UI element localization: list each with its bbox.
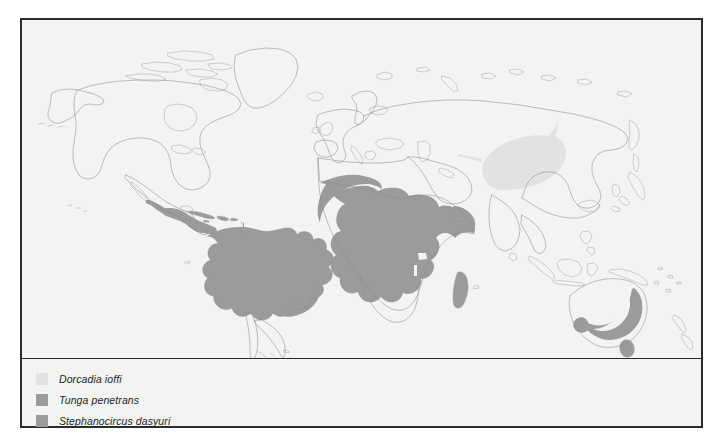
legend-label-stephanocircus-dasyuri: Stephanocircus dasyuri [59, 415, 170, 427]
legend-swatch-stephanocircus-dasyuri [36, 415, 48, 427]
lake-victoria-enclave [418, 253, 427, 260]
world-map-svg [22, 20, 701, 358]
legend-swatch-tunga-penetrans [36, 394, 48, 406]
rift-lakes-enclave [414, 265, 417, 276]
legend-swatch-dorcadia-ioffi [36, 373, 48, 385]
legend-label-dorcadia-ioffi: Dorcadia ioffi [59, 373, 122, 385]
world-map-panel [22, 20, 701, 358]
legend-item-stephanocircus-dasyuri: Stephanocircus dasyuri [36, 410, 701, 431]
legend-item-dorcadia-ioffi: Dorcadia ioffi [36, 368, 701, 389]
legend-item-tunga-penetrans: Tunga penetrans [36, 389, 701, 410]
figure-panel: Dorcadia ioffi Tunga penetrans Stephanoc… [20, 18, 703, 428]
legend: Dorcadia ioffi Tunga penetrans Stephanoc… [22, 359, 701, 426]
legend-label-tunga-penetrans: Tunga penetrans [59, 394, 139, 406]
